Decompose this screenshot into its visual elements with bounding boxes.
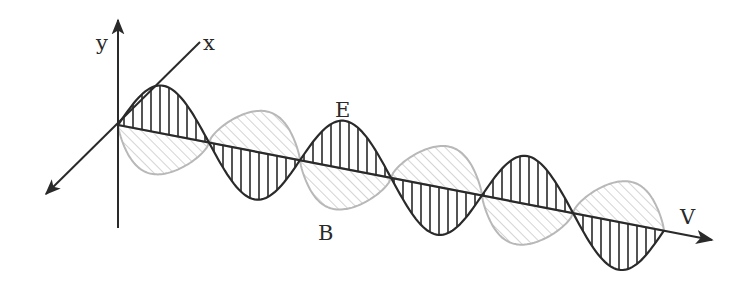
x-axis-label: x (203, 31, 215, 55)
electric-field-label: E (335, 98, 350, 122)
magnetic-field-label: B (318, 221, 333, 245)
propagation-label: V (679, 205, 696, 229)
y-axis-label: y (95, 31, 108, 55)
em-wave-diagram: y x E B V (0, 0, 747, 285)
